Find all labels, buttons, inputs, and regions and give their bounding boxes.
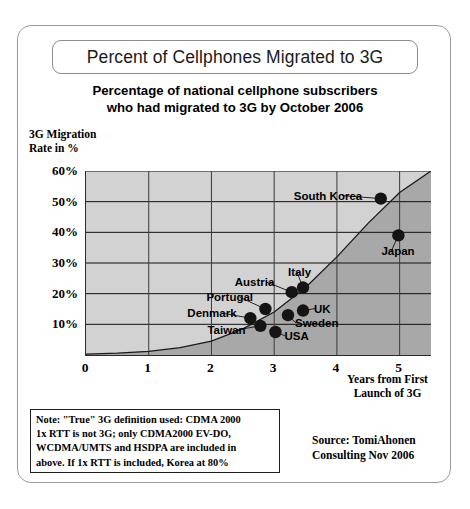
data-label-japan: Japan [381,245,414,257]
x-axis-caption-line-2: Launch of 3G [330,386,445,400]
x-axis-caption-line-1: Years from First [330,372,445,386]
data-label-uk: UK [314,303,331,315]
page-title: Percent of Cellphones Migrated to 3G [87,47,383,68]
note-line-4: above. If 1x RTT is included, Korea at 8… [36,456,274,470]
source-credit: Source: TomiAhonen Consulting Nov 2006 [312,433,416,463]
y-axis-caption-line-2: Rate in % [29,142,96,156]
subtitle-line-2: who had migrated to 3G by October 2006 [0,99,470,116]
data-label-portugal: Portugal [206,291,253,303]
data-label-denmark: Denmark [187,307,236,319]
y-tick-label-20: 20% [38,286,78,302]
note-line-3: WCDMA/UMTS and HSDPA are included in [36,441,274,455]
y-tick-label-50: 50% [38,194,78,210]
note-line-2: 1x RTT is not 3G; only CDMA2000 EV-DO, [36,427,274,441]
x-axis-caption: Years from First Launch of 3G [330,372,445,400]
data-label-south-korea: South Korea [294,190,362,202]
x-tick-label-2: 2 [198,360,222,376]
chart-title-box: Percent of Cellphones Migrated to 3G [52,40,418,74]
data-label-austria: Austria [235,276,275,288]
y-tick-label-40: 40% [38,224,78,240]
y-tick-label-10: 10% [38,316,78,332]
source-line-1: Source: TomiAhonen [312,433,416,448]
chart-page: Percent of Cellphones Migrated to 3G Per… [0,0,470,509]
chart-subtitle: Percentage of national cellphone subscri… [0,82,470,116]
plot-area [85,171,431,356]
data-label-italy: Italy [288,266,311,278]
plot-canvas [86,171,431,355]
note-box: Note: "True" 3G definition used: CDMA 20… [30,409,280,473]
y-axis-caption-line-1: 3G Migration [29,128,96,142]
data-label-usa: USA [284,330,308,342]
x-tick-label-0: 0 [73,360,97,376]
data-label-taiwan: Taiwan [207,324,245,336]
source-line-2: Consulting Nov 2006 [312,448,416,463]
note-line-1: Note: "True" 3G definition used: CDMA 20… [36,413,274,427]
x-tick-label-3: 3 [261,360,285,376]
data-label-sweden: Sweden [295,317,338,329]
y-tick-label-60: 60% [38,163,78,179]
y-tick-label-30: 30% [38,255,78,271]
y-axis-caption: 3G Migration Rate in % [29,128,96,155]
x-tick-label-1: 1 [136,360,160,376]
subtitle-line-1: Percentage of national cellphone subscri… [0,82,470,99]
